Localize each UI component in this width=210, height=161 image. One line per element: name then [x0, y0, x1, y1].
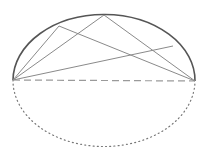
chord-P-B: [59, 26, 195, 81]
diameter-dashed: [13, 80, 195, 81]
chord-T-B: [104, 15, 195, 81]
chords-group: [13, 15, 195, 81]
circle-chord-diagram: [0, 0, 210, 161]
lower-arc-dotted: [13, 80, 195, 147]
